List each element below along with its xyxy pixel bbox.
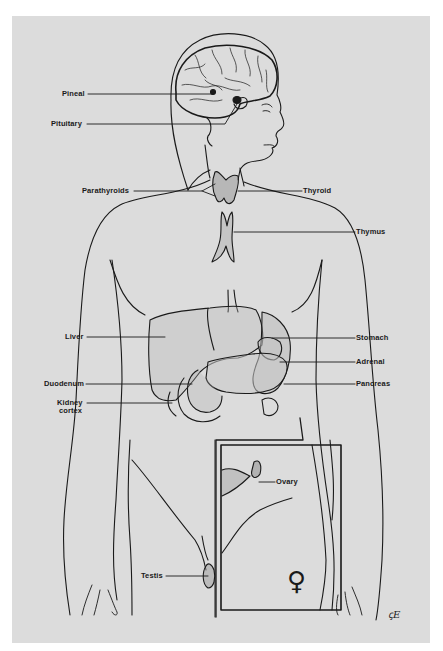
kidney xyxy=(262,398,278,416)
brain xyxy=(176,45,277,118)
face-features xyxy=(262,104,274,146)
label-liver: Liver xyxy=(65,333,83,341)
groin-lines xyxy=(132,440,215,617)
leader-pituitary xyxy=(87,104,237,124)
label-pancreas: Pancreas xyxy=(356,380,390,388)
label-adrenal: Adrenal xyxy=(356,358,385,366)
female-inset xyxy=(216,418,341,617)
label-cortex: cortex xyxy=(59,407,82,415)
label-ovary: Ovary xyxy=(276,478,298,486)
pancreas xyxy=(206,353,287,393)
thyroid-gland xyxy=(213,172,239,204)
female-symbol-icon: ♀ xyxy=(287,568,306,594)
label-duodenum: Duodenum xyxy=(44,380,84,388)
label-testis: Testis xyxy=(141,572,163,580)
label-pineal: Pineal xyxy=(62,90,85,98)
label-stomach: Stomach xyxy=(356,334,388,342)
leader-parathyroids xyxy=(134,184,215,196)
artist-signature: ꞔE xyxy=(388,607,400,621)
label-pituitary: Pituitary xyxy=(51,120,82,128)
label-parathyroids: Parathyroids xyxy=(82,187,129,195)
thymus-gland xyxy=(212,212,234,262)
label-thymus: Thymus xyxy=(356,228,385,236)
label-thyroid: Thyroid xyxy=(303,187,331,195)
